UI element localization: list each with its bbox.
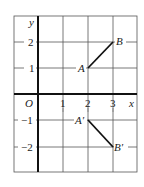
x-tick-3: 3 [110,97,116,109]
segment-a-prime-b-prime [88,120,113,147]
x-axis-label: x [128,97,134,109]
point-a-prime-label: A′ [74,114,85,126]
x-tick-2: 2 [85,97,91,109]
segment-ab [88,42,113,68]
y-tick-1: 1 [29,62,35,74]
coordinate-grid-diagram: y x O 1 2 3 2 1 −1 −2 A B A′ B′ [0,0,144,187]
point-b-label: B [116,35,123,47]
origin-label: O [25,97,33,109]
y-tick-neg-1: −1 [21,114,33,126]
x-tick-1: 1 [60,97,66,109]
y-tick-2: 2 [28,36,34,48]
point-b-prime-label: B′ [114,141,124,153]
y-axis-label: y [28,16,34,28]
y-tick-neg-2: −2 [21,141,33,153]
point-a-label: A [77,62,85,74]
